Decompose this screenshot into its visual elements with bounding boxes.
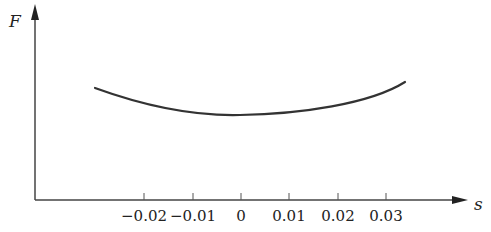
tick-label: 0: [236, 207, 246, 225]
x-ticks: [144, 193, 386, 200]
curve-F-of-s: [95, 82, 405, 115]
tick-label: 0.01: [272, 207, 305, 225]
tick-label: 0.03: [369, 207, 402, 225]
x-axis-label: s: [474, 194, 483, 214]
y-axis-label: F: [8, 11, 22, 31]
chart: −0.02 −0.01 0 0.01 0.02 0.03 F s: [0, 0, 491, 232]
tick-label: −0.01: [170, 207, 216, 225]
y-axis-arrow-icon: [31, 4, 39, 20]
x-axis-arrow-icon: [452, 196, 468, 204]
tick-label: −0.02: [121, 207, 167, 225]
tick-label: 0.02: [321, 207, 354, 225]
